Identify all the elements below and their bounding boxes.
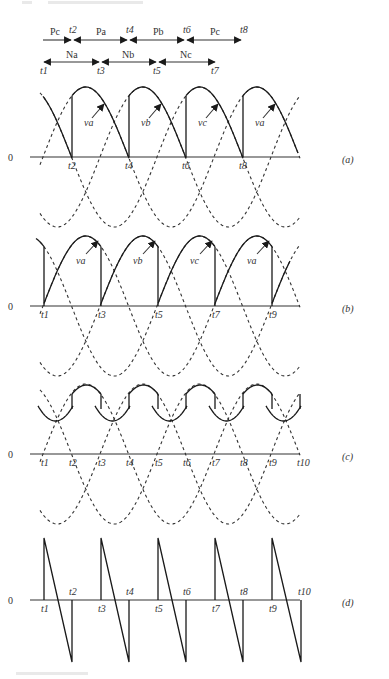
output-waveform — [152, 406, 187, 421]
output-waveform — [72, 385, 101, 394]
waveform-figure: Pc Pa Pb Pc t2 t4 t6 t8 Na Nb Nc t1 t3 t… — [0, 0, 389, 679]
output-waveform — [129, 385, 158, 394]
wave-label: va — [84, 117, 93, 128]
output-waveform — [186, 385, 215, 394]
pointer-arrow — [92, 104, 104, 118]
time-label: t3 — [98, 603, 106, 614]
time-label: t6 — [183, 457, 191, 468]
time-label: t9 — [269, 309, 277, 320]
panel-a: 0(a)t2t4t6t8vavbvcva — [8, 87, 354, 227]
time-label: t5 — [155, 603, 163, 614]
group-label: Nc — [180, 49, 192, 60]
time-label: t1 — [41, 603, 49, 614]
output-waveform — [215, 236, 272, 303]
time-label: t9 — [269, 603, 277, 614]
output-waveform — [266, 406, 301, 421]
output-waveform — [129, 87, 186, 158]
pointer-arrow — [86, 241, 98, 254]
time-label: t9 — [269, 457, 277, 468]
time-label: t8 — [239, 160, 247, 171]
output-waveform — [243, 385, 272, 394]
interval-bars: Pc Pa Pb Pc t2 t4 t6 t8 Na Nb Nc t1 t3 t… — [40, 24, 248, 76]
header-text-fragment — [22, 1, 32, 4]
output-waveform — [209, 406, 244, 421]
pointer-arrow — [143, 241, 155, 254]
time-label: t1 — [40, 65, 48, 76]
time-label: t1 — [41, 309, 49, 320]
panel-label: (d) — [342, 597, 354, 609]
time-label: t10 — [298, 586, 311, 597]
pointer-arrow — [257, 241, 269, 254]
pointer-arrow — [149, 104, 161, 118]
output-waveform — [272, 261, 290, 303]
output-waveform — [243, 87, 298, 153]
time-label: t2 — [69, 24, 77, 35]
time-label: t7 — [212, 457, 221, 468]
time-label: t10 — [297, 457, 310, 468]
time-label: t2 — [68, 160, 76, 171]
time-label: t8 — [240, 586, 248, 597]
wave-label: va — [255, 117, 264, 128]
time-label: t5 — [153, 65, 161, 76]
group-label: Na — [66, 49, 78, 60]
time-label: t5 — [155, 309, 163, 320]
time-label: t6 — [183, 24, 191, 35]
group-label: Pb — [153, 26, 164, 37]
wave-label: vb — [141, 117, 150, 128]
time-label: t6 — [182, 160, 190, 171]
time-label: t3 — [97, 65, 105, 76]
time-label: t3 — [98, 457, 106, 468]
pointer-arrow — [206, 104, 218, 118]
time-label: t6 — [183, 586, 191, 597]
output-waveform — [44, 236, 101, 303]
caption-fragment — [16, 672, 88, 675]
panel-label: (a) — [342, 154, 354, 166]
time-label: t5 — [155, 457, 163, 468]
output-waveform — [43, 96, 72, 158]
output-waveform — [38, 406, 73, 421]
wave-label: vb — [133, 255, 142, 266]
zero-label: 0 — [8, 595, 13, 606]
output-waveform — [158, 236, 215, 303]
time-label: t7 — [212, 309, 221, 320]
output-waveform — [95, 406, 130, 421]
wave-label: va — [247, 255, 256, 266]
time-label: t4 — [126, 457, 134, 468]
wave-label: vc — [190, 255, 199, 266]
output-waveform — [36, 239, 44, 247]
output-waveform — [101, 236, 158, 303]
group-label: Pc — [210, 26, 221, 37]
panel-d: 0(d)t1t2t3t4t5t6t7t8t9t10 — [8, 538, 354, 662]
time-label: t2 — [69, 457, 77, 468]
wave-label: vc — [198, 117, 207, 128]
panel-c: 0(c)t1t2t3t4t5t6t7t8t9t10 — [8, 384, 354, 524]
time-label: t4 — [126, 586, 134, 597]
panel-b: 0(b)t1t3t5t7t9vavbvcva — [8, 236, 354, 376]
group-label: Pc — [50, 26, 61, 37]
time-label: t8 — [240, 457, 248, 468]
output-waveform — [72, 87, 129, 158]
panel-label: (b) — [342, 303, 354, 315]
zero-label: 0 — [8, 152, 13, 163]
group-label: Pa — [96, 26, 107, 37]
output-waveform — [186, 87, 243, 158]
time-label: t2 — [69, 586, 77, 597]
time-label: t1 — [41, 457, 49, 468]
zero-label: 0 — [8, 449, 13, 460]
pointer-arrow — [263, 104, 275, 118]
time-label: t7 — [211, 65, 220, 76]
time-label: t3 — [98, 309, 106, 320]
time-label: t4 — [126, 24, 134, 35]
time-label: t4 — [125, 160, 133, 171]
time-label: t7 — [212, 603, 221, 614]
panel-label: (c) — [342, 451, 354, 463]
pointer-arrow — [200, 241, 212, 254]
zero-label: 0 — [8, 301, 13, 312]
wave-label: va — [76, 255, 85, 266]
group-label: Nb — [122, 49, 134, 60]
header-text-fragment — [48, 1, 143, 4]
time-label: t8 — [240, 24, 248, 35]
